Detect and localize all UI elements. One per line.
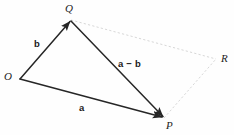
vector-a-arrow (20, 79, 162, 117)
vector-b-arrow (20, 22, 70, 80)
vector-diagram: O Q P R b a a − b (0, 0, 234, 135)
construction-line-q-to-r (71, 20, 216, 59)
point-label-r: R (221, 53, 228, 64)
vector-label-b: b (34, 39, 40, 49)
vector-a-minus-b-arrow (71, 21, 163, 117)
point-label-o: O (4, 71, 12, 82)
vector-label-a-minus-b: a − b (118, 59, 141, 69)
construction-line-p-to-r (164, 59, 216, 118)
point-label-q: Q (65, 3, 73, 14)
vector-diagram-canvas (0, 0, 234, 135)
point-label-p: P (166, 120, 173, 131)
vector-label-a: a (79, 103, 84, 113)
